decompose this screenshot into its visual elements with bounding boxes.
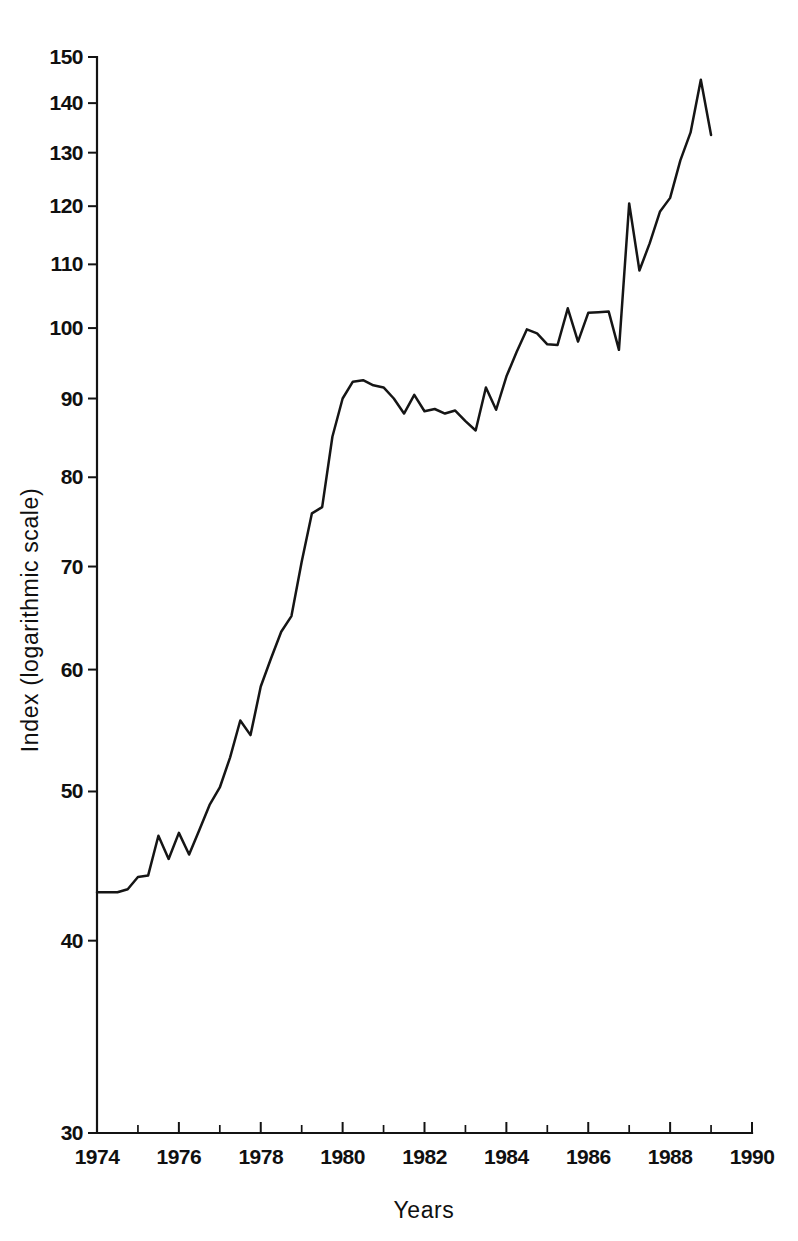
x-axis-ticks: 197419761978198019821984198619881990 xyxy=(75,1122,775,1168)
x-axis-title: Years xyxy=(394,1197,455,1223)
chart-figure: 30405060708090100110120130140150 1974197… xyxy=(0,0,798,1241)
data-series-line xyxy=(97,80,711,893)
y-tick-label: 70 xyxy=(61,555,83,578)
x-tick-label: 1988 xyxy=(648,1145,694,1168)
y-axis-title: Index (logarithmic scale) xyxy=(17,488,43,752)
x-tick-label: 1986 xyxy=(566,1145,611,1168)
y-tick-label: 150 xyxy=(49,45,83,68)
x-tick-label: 1990 xyxy=(730,1145,775,1168)
y-tick-label: 90 xyxy=(61,387,83,410)
y-tick-label: 80 xyxy=(61,465,83,488)
x-tick-label: 1974 xyxy=(75,1145,121,1168)
y-tick-label: 110 xyxy=(51,252,83,275)
x-tick-label: 1980 xyxy=(320,1145,365,1168)
x-tick-label: 1976 xyxy=(157,1145,202,1168)
axis-spines xyxy=(97,57,752,1133)
y-axis-ticks: 30405060708090100110120130140150 xyxy=(49,45,97,1144)
y-tick-label: 40 xyxy=(61,929,83,952)
x-tick-label: 1982 xyxy=(402,1145,447,1168)
y-tick-label: 130 xyxy=(49,141,83,164)
y-tick-label: 30 xyxy=(61,1121,83,1144)
y-tick-label: 100 xyxy=(49,316,83,339)
x-tick-label: 1984 xyxy=(484,1145,530,1168)
y-tick-label: 50 xyxy=(61,779,83,802)
y-tick-label: 120 xyxy=(49,194,83,217)
x-tick-label: 1978 xyxy=(238,1145,284,1168)
y-tick-label: 60 xyxy=(61,658,83,681)
y-tick-label: 140 xyxy=(49,91,83,114)
line-chart: 30405060708090100110120130140150 1974197… xyxy=(0,0,798,1241)
